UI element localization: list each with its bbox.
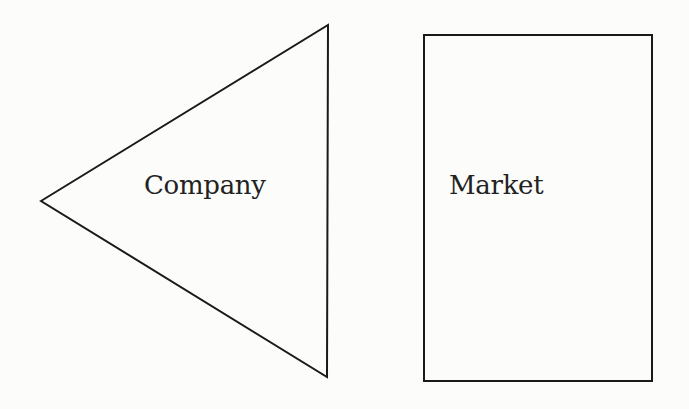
company-label: Company xyxy=(144,172,266,198)
diagram-canvas xyxy=(0,0,689,409)
market-rectangle xyxy=(424,35,652,381)
company-triangle xyxy=(41,25,328,377)
market-label: Market xyxy=(449,172,543,198)
